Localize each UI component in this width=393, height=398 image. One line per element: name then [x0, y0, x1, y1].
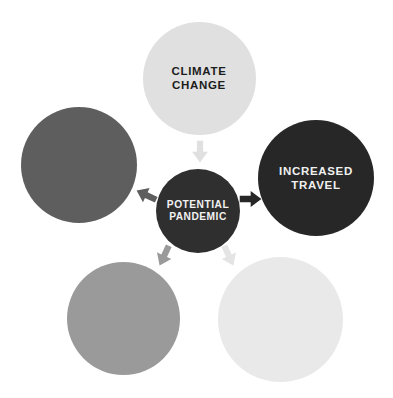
node-label-increased-travel: INCREASED TRAVEL [279, 164, 353, 192]
circle-node-potential-pandemic[interactable]: POTENTIAL PANDEMIC [156, 169, 240, 253]
arrow-increased-travel-to-center [238, 186, 264, 212]
circle-node-climate-change[interactable]: CLIMATE CHANGE [143, 22, 256, 135]
circle-node-unlabeled-bottom-right[interactable] [218, 257, 343, 382]
circle-node-unlabeled-bottom-left[interactable] [67, 262, 180, 375]
node-label-potential-pandemic: POTENTIAL PANDEMIC [167, 199, 229, 224]
node-label-climate-change: CLIMATE CHANGE [171, 64, 226, 92]
arrow-climate-change-to-center [187, 139, 213, 165]
circle-node-unlabeled-left[interactable] [21, 107, 137, 223]
circle-node-increased-travel[interactable]: INCREASED TRAVEL [258, 120, 374, 236]
pandemic-diagram-canvas: CLIMATE CHANGEINCREASED TRAVELPOTENTIAL … [0, 0, 393, 398]
